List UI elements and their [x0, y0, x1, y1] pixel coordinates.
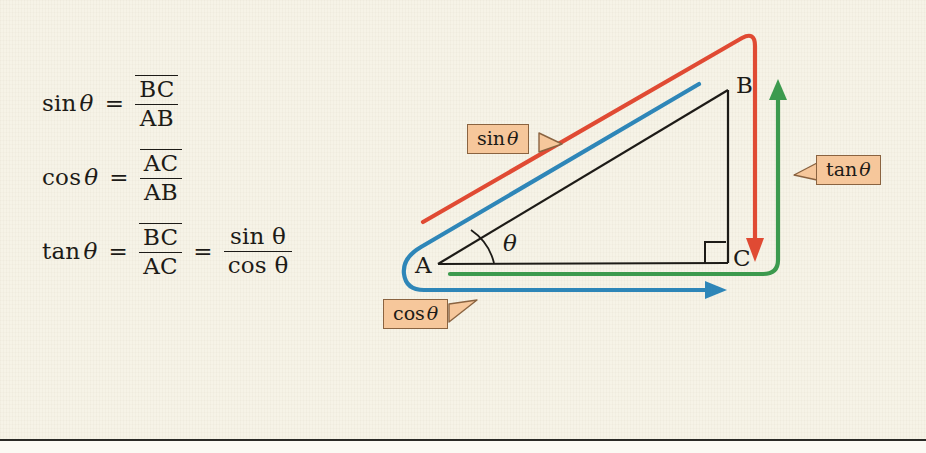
vertex-label-C: C	[733, 245, 751, 271]
cos-trace-path	[404, 84, 707, 290]
sin-callout-label: sin	[477, 127, 505, 149]
vertex-label-A: A	[415, 252, 432, 278]
cos-callout-label: cos	[393, 302, 425, 324]
cos-callout-box[interactable]: cosθ	[383, 299, 448, 329]
triangle-diagram	[0, 0, 926, 453]
tan-callout-label: tan	[826, 158, 857, 180]
sin-callout-box[interactable]: sinθ	[467, 124, 529, 154]
vertex-label-B: B	[736, 72, 753, 98]
theta-angle-arc	[471, 230, 494, 263]
theta-angle-label: θ	[503, 230, 517, 256]
cos-callout-theta: θ	[427, 302, 438, 324]
bottom-margin-strip	[0, 441, 926, 453]
right-angle-marker	[705, 242, 726, 263]
sin-callout-theta: θ	[507, 127, 518, 149]
tan-callout-box[interactable]: tanθ	[816, 155, 881, 185]
cos-trace-arrowhead	[705, 281, 727, 299]
figure-page: sin θ = BC AB cos θ = AC AB tan θ = B	[0, 0, 926, 453]
tan-trace-arrowhead	[769, 79, 787, 100]
cos-callout-pointer	[449, 300, 477, 322]
tan-callout-pointer	[794, 163, 817, 180]
triangle-side-AC	[438, 263, 728, 264]
tan-callout-theta: θ	[859, 158, 870, 180]
